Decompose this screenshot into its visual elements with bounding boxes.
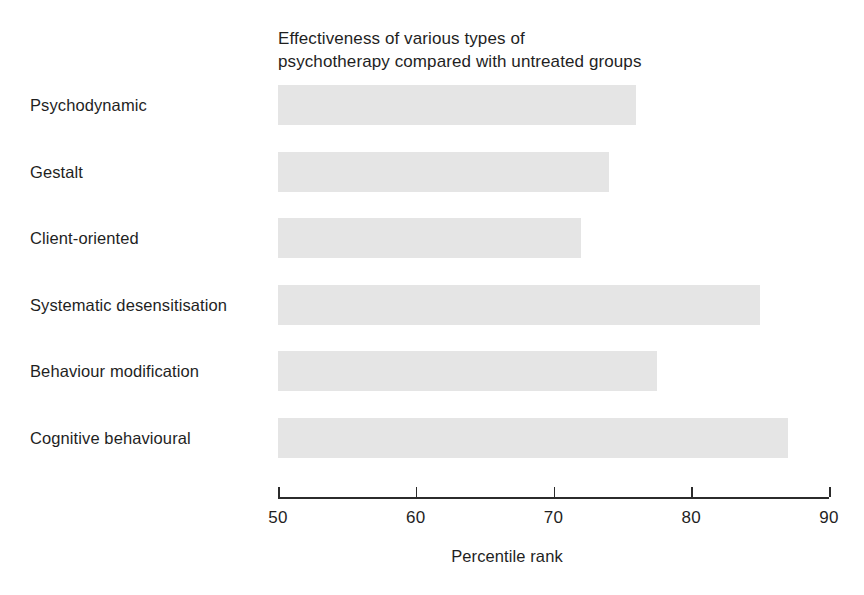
bar-category-label: Client-oriented — [30, 218, 139, 258]
bar-row: Psychodynamic — [0, 85, 864, 125]
bar — [278, 285, 760, 325]
bar — [278, 418, 788, 458]
bar-chart: Effectiveness of various types of psycho… — [0, 0, 864, 595]
x-axis-tick-label: 80 — [681, 508, 701, 528]
x-axis-line — [278, 497, 829, 499]
x-axis-tick — [554, 487, 556, 497]
bar-row: Gestalt — [0, 152, 864, 192]
x-axis-tick — [829, 487, 831, 497]
bar-category-label: Gestalt — [30, 152, 83, 192]
x-axis-tick-label: 60 — [406, 508, 426, 528]
x-axis-tick-label: 50 — [268, 508, 288, 528]
x-axis-tick-label: 90 — [819, 508, 839, 528]
x-axis-tick-label: 70 — [544, 508, 564, 528]
chart-title: Effectiveness of various types of psycho… — [278, 27, 758, 73]
bar-category-label: Systematic desensitisation — [30, 285, 227, 325]
bar-category-label: Psychodynamic — [30, 85, 147, 125]
bar-row: Cognitive behavioural — [0, 418, 864, 458]
bar — [278, 351, 657, 391]
x-axis-tick — [691, 487, 693, 497]
plot-area: PsychodynamicGestaltClient-orientedSyste… — [0, 85, 864, 485]
bar — [278, 218, 581, 258]
bar-row: Client-oriented — [0, 218, 864, 258]
x-axis-title: Percentile rank — [0, 547, 864, 566]
x-axis-tick — [416, 487, 418, 497]
bar-row: Behaviour modification — [0, 351, 864, 391]
bar-row: Systematic desensitisation — [0, 285, 864, 325]
bar — [278, 152, 609, 192]
bar-category-label: Cognitive behavioural — [30, 418, 191, 458]
bar — [278, 85, 636, 125]
bar-category-label: Behaviour modification — [30, 351, 199, 391]
x-axis-tick — [278, 487, 280, 497]
